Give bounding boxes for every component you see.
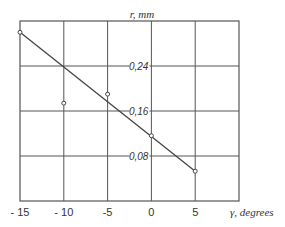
y-tick-labels: 0,080,160,24 [129,60,149,162]
x-tick-label: - 15 [11,206,30,218]
data-point-marker [62,101,66,105]
data-point-marker [106,92,110,96]
x-axis-label: γ, degrees [230,206,274,218]
y-tick-label: 0,16 [129,106,149,117]
x-tick-label: -5 [103,206,113,218]
x-tick-labels: - 15- 10-505 [11,206,199,218]
y-axis-label-group: r, mm [126,8,158,20]
y-tick-label: 0,08 [129,151,149,162]
x-tick-label: - 10 [54,206,73,218]
x-tick-label: 5 [192,206,198,218]
chart: 0,080,160,24 - 15- 10-505 r, mm γ, degre… [0,0,285,227]
data-point-marker [149,134,153,138]
data-point-marker [193,169,197,173]
y-tick-label: 0,24 [129,61,149,72]
data-point-marker [18,30,22,34]
x-tick-label: 0 [148,206,154,218]
y-axis-label: r, mm [130,8,155,20]
